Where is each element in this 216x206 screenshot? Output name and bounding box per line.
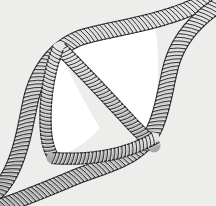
figure-root (0, 0, 216, 206)
coiled-filament-diagram (0, 0, 216, 206)
